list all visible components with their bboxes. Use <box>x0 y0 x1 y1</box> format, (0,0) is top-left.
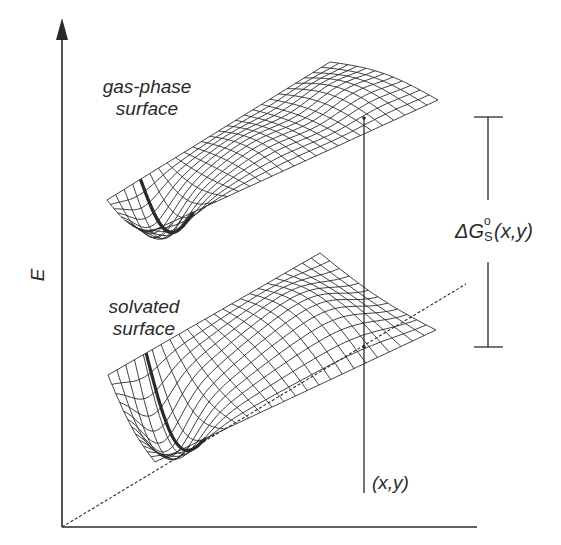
y-axis-arrow-icon <box>56 18 68 40</box>
point-xy-text: (x,y) <box>372 472 409 493</box>
delta-g-argument: (x,y) <box>494 220 533 242</box>
energy-axis-label: E <box>27 269 49 282</box>
gas-phase-label-line2: surface <box>100 98 194 120</box>
solvated-surface-mesh <box>108 253 436 462</box>
solvated-surface-label: solvated surface <box>102 296 186 340</box>
delta-g-solvation-label: ΔGoS(x,y) <box>455 220 533 243</box>
diagram-canvas <box>0 0 561 545</box>
delta-g-superscript: o <box>484 214 491 228</box>
solvated-label-line2: surface <box>102 318 186 340</box>
delta-g-subscript: S <box>484 229 493 244</box>
delta-g-symbol: ΔG <box>455 220 484 242</box>
solvated-point <box>362 345 366 349</box>
solvated-label-line1: solvated <box>102 296 186 318</box>
gas-phase-surface-label: gas-phase surface <box>100 76 194 120</box>
point-xy-label: (x,y) <box>372 472 409 494</box>
gas-phase-point <box>362 116 366 120</box>
gas-phase-label-line1: gas-phase <box>100 76 194 98</box>
